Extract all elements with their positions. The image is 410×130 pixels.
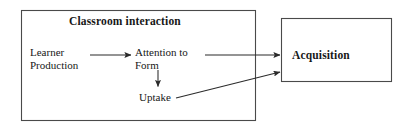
node-learner-production: Learner Production [30,46,78,71]
node-attention-to-form: Attention to Form [135,46,188,71]
edge-uptake-to-acquisition [176,72,280,98]
node-acquisition: Acquisition [292,49,350,62]
node-uptake: Uptake [139,91,171,104]
diagram-canvas: Classroom interaction Learner Production… [0,0,410,130]
classroom-interaction-title: Classroom interaction [69,15,181,28]
